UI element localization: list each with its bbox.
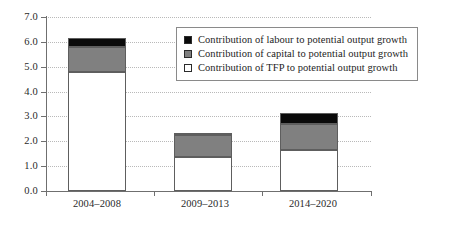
x-tick-0 (46, 191, 47, 196)
bar-segment-capital-2014-2020 (280, 124, 338, 150)
bar-group-2009-2013 (174, 133, 232, 191)
bar-group-2004-2008 (68, 38, 126, 191)
y-axis-line (46, 16, 47, 192)
y-axis-label-4: 4.0 (4, 87, 38, 98)
y-axis-label-5: 5.0 (4, 62, 38, 73)
y-tick-4 (41, 92, 46, 93)
legend-label-labour: Contribution of labour to potential outp… (198, 34, 407, 46)
bar-segment-tfp-2009-2013 (174, 157, 232, 191)
y-tick-7 (41, 17, 46, 18)
bar-group-2014-2020 (280, 113, 338, 191)
y-axis-label-1: 1.0 (4, 161, 38, 172)
x-tick-3 (371, 191, 372, 196)
x-axis-label-2014-2020: 2014–2020 (258, 198, 368, 209)
x-axis-label-2009-2013: 2009–2013 (150, 198, 260, 209)
chart-container: 7.0 6.0 5.0 4.0 3.0 2.0 1.0 0.0 2004–200… (0, 0, 453, 228)
chart-legend: Contribution of labour to potential outp… (176, 27, 418, 81)
legend-item-tfp: Contribution of TFP to potential output … (184, 61, 408, 75)
legend-label-tfp: Contribution of TFP to potential output … (198, 62, 397, 74)
legend-swatch-tfp-icon (184, 64, 192, 72)
y-tick-6 (41, 42, 46, 43)
x-axis-line (46, 191, 372, 192)
y-tick-1 (41, 166, 46, 167)
y-axis-label-0: 0.0 (4, 186, 38, 197)
bar-segment-labour-2004-2008 (68, 38, 126, 47)
legend-item-labour: Contribution of labour to potential outp… (184, 33, 408, 47)
x-tick-2 (262, 191, 263, 196)
bar-segment-capital-2004-2008 (68, 47, 126, 72)
x-axis-label-2004-2008: 2004–2008 (42, 198, 152, 209)
y-axis-label-7: 7.0 (4, 12, 38, 23)
bar-segment-tfp-2014-2020 (280, 150, 338, 191)
x-tick-1 (154, 191, 155, 196)
y-tick-5 (41, 67, 46, 68)
y-tick-3 (41, 116, 46, 117)
bar-segment-tfp-2004-2008 (68, 72, 126, 191)
bar-segment-labour-2014-2020 (280, 113, 338, 124)
legend-swatch-labour-icon (184, 36, 192, 44)
gridline-7 (46, 17, 371, 18)
bar-segment-labour-2009-2013 (174, 133, 232, 135)
bar-segment-capital-2009-2013 (174, 135, 232, 157)
y-axis-label-6: 6.0 (4, 37, 38, 48)
y-axis-label-2: 2.0 (4, 136, 38, 147)
legend-label-capital: Contribution of capital to potential out… (198, 48, 408, 60)
legend-swatch-capital-icon (184, 50, 192, 58)
y-axis-label-3: 3.0 (4, 111, 38, 122)
legend-item-capital: Contribution of capital to potential out… (184, 47, 408, 61)
y-tick-2 (41, 141, 46, 142)
